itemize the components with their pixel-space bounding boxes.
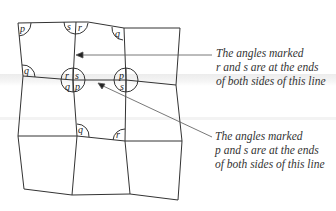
edge-row-1 [18,22,180,28]
annotation-line: r and s are at the ends [216,60,326,74]
edge-row-4 [24,189,178,200]
angle-label: p [19,23,25,34]
angle-label: s [67,21,71,32]
angle-label: q [65,81,70,92]
arrow-1-head [76,52,83,58]
edge-col-1 [18,23,24,189]
angle-label: p [118,70,124,81]
arrow-2-head [98,83,105,89]
angle-label: r [65,70,69,81]
angle-label: s [75,70,79,81]
angle-label: q [24,65,29,76]
annotation-line: of both sides of this line [216,74,326,88]
edge-col-2 [72,22,77,195]
annotation-line: The angles marked [215,129,325,143]
angle-label: q [115,28,120,39]
annotation-rs: The angles marked r and s are at the end… [216,46,326,88]
angle-label: s [120,81,124,92]
annotation-line: of both sides of this line [215,157,325,171]
annotation-line: p and s are at the ends [215,143,325,157]
edge-col-3 [124,28,130,194]
angle-label: r [78,22,82,33]
tessellation-diagram: p s r q q r s q p p s q r [0,0,336,211]
annotation-line: The angles marked [216,46,326,60]
angle-label: q [78,124,83,135]
angle-label: p [74,81,80,92]
angle-label: r [116,129,120,140]
annotation-ps: The angles marked p and s are at the end… [215,129,325,171]
edge-row-3 [18,136,182,141]
edge-col-4 [176,28,182,200]
